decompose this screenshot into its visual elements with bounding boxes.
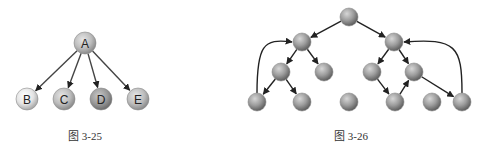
node-M (340, 93, 358, 111)
node-LR (315, 63, 333, 81)
node-label: C (60, 93, 69, 107)
figure-3-26-edges (257, 21, 462, 96)
edge-RR-RRR (422, 77, 454, 97)
node-E: E (127, 88, 149, 110)
edge-A-B (36, 51, 77, 91)
node-C: C (53, 88, 75, 110)
node-r (340, 8, 358, 26)
node-label: A (81, 37, 89, 51)
node-label: E (134, 93, 142, 107)
edge-RLR-RR (400, 80, 409, 94)
edge-L-LR (307, 49, 318, 64)
node-LL (272, 63, 290, 81)
node-B: B (16, 88, 38, 110)
edge-L-LL (287, 49, 297, 63)
node-A: A (74, 32, 96, 54)
edge-R-RR (399, 49, 408, 63)
edge-RL-RLR (377, 79, 388, 94)
edge-A-C (68, 53, 81, 87)
node-RL (363, 63, 381, 81)
edge-r-R (357, 21, 385, 37)
edge-LL-LLL (263, 79, 275, 94)
figure-3-25-nodes: ABCDE (16, 32, 149, 110)
edge-LL-LLR (286, 79, 296, 93)
node-RR (405, 63, 423, 81)
node-label: D (97, 93, 106, 107)
figure-3-25-edges (36, 51, 130, 91)
node-L (293, 33, 311, 51)
edge-A-E (93, 51, 130, 90)
node-X (423, 93, 441, 111)
node-label: B (23, 93, 31, 107)
edge-r-L (311, 21, 341, 37)
edge-A-D (88, 54, 98, 88)
figure-3-25-caption: 图 3-25 (68, 127, 102, 143)
node-RLR (386, 93, 404, 111)
node-LLR (293, 93, 311, 111)
node-LLL (248, 93, 266, 111)
edge-R-RL (378, 49, 389, 64)
node-RRR (453, 93, 471, 111)
figure-3-26-caption: 图 3-26 (334, 127, 368, 143)
node-R (385, 33, 403, 51)
node-D: D (90, 88, 112, 110)
